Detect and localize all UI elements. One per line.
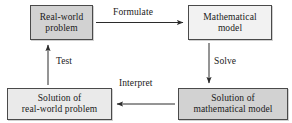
node-mathematical-model: Mathematical model: [188, 5, 272, 40]
edge-label-interpret: Interpret: [119, 78, 153, 88]
node-solution-of-real-world-problem-line-2: real-world problem: [22, 104, 97, 115]
edge-label-formulate: Formulate: [113, 7, 153, 17]
node-real-world-problem-line-2: problem: [45, 23, 77, 34]
node-real-world-problem: Real-world problem: [30, 5, 93, 40]
edge-label-solve: Solve: [214, 56, 236, 66]
node-mathematical-model-line-1: Mathematical: [203, 12, 256, 23]
modeling-cycle-diagram: Real-world problem Mathematical model So…: [0, 0, 292, 123]
node-real-world-problem-line-1: Real-world: [40, 12, 84, 23]
edge-label-test: Test: [56, 56, 72, 66]
node-solution-of-mathematical-model: Solution of mathematical model: [178, 88, 288, 120]
node-solution-of-real-world-problem: Solution of real-world problem: [7, 88, 112, 120]
node-solution-of-real-world-problem-line-1: Solution of: [38, 93, 82, 104]
node-mathematical-model-line-2: model: [218, 23, 242, 34]
node-solution-of-mathematical-model-line-1: Solution of: [211, 93, 255, 104]
node-solution-of-mathematical-model-line-2: mathematical model: [193, 104, 272, 115]
